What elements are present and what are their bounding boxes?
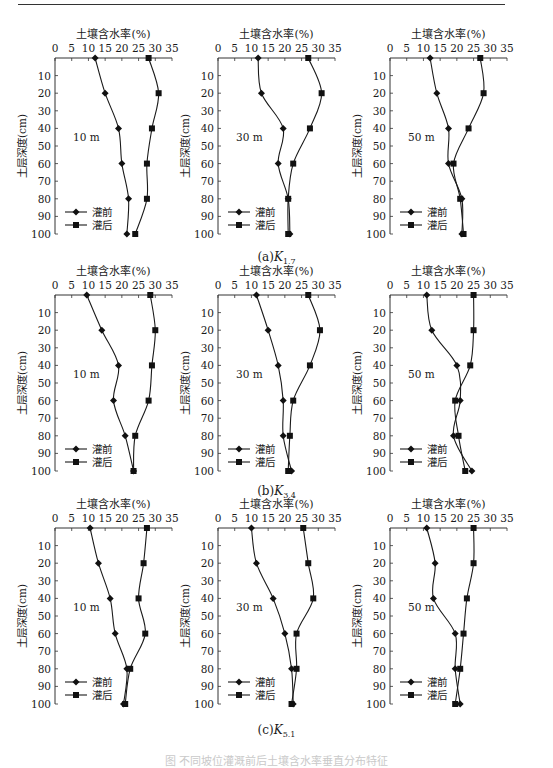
- svg-text:35: 35: [500, 279, 513, 291]
- svg-text:15: 15: [261, 279, 274, 291]
- svg-text:90: 90: [373, 680, 386, 692]
- svg-text:10: 10: [82, 512, 95, 524]
- svg-text:100: 100: [194, 698, 214, 710]
- svg-text:5: 5: [231, 512, 238, 524]
- panel-8: 05101520253035102030405060708090100土壤含水率…: [351, 497, 514, 710]
- svg-text:20: 20: [201, 324, 214, 336]
- svg-text:60: 60: [373, 395, 386, 407]
- svg-text:0: 0: [387, 279, 394, 291]
- svg-text:20: 20: [373, 557, 386, 569]
- svg-text:30: 30: [38, 105, 51, 117]
- svg-text:灌后: 灌后: [255, 689, 275, 701]
- svg-text:10: 10: [417, 42, 430, 54]
- svg-text:20: 20: [278, 279, 291, 291]
- svg-text:10: 10: [38, 70, 51, 82]
- svg-text:20: 20: [373, 324, 386, 336]
- svg-text:70: 70: [201, 175, 214, 187]
- svg-text:灌前: 灌前: [427, 443, 447, 455]
- svg-text:20: 20: [450, 279, 463, 291]
- svg-text:70: 70: [201, 645, 214, 657]
- svg-text:15: 15: [98, 512, 111, 524]
- svg-text:25: 25: [132, 279, 145, 291]
- svg-text:40: 40: [373, 592, 386, 604]
- panel-caption-b: (b)K3.4: [0, 484, 553, 500]
- svg-text:60: 60: [38, 628, 51, 640]
- svg-text:5: 5: [231, 279, 238, 291]
- svg-text:50: 50: [38, 140, 51, 152]
- svg-text:100: 100: [366, 465, 386, 477]
- svg-text:80: 80: [201, 193, 214, 205]
- panel-caption-c: (c)K5.1: [0, 723, 553, 739]
- svg-text:5: 5: [68, 42, 75, 54]
- svg-text:0: 0: [215, 42, 222, 54]
- svg-text:100: 100: [31, 228, 51, 240]
- svg-text:5: 5: [403, 512, 410, 524]
- svg-text:90: 90: [373, 447, 386, 459]
- svg-text:50: 50: [373, 610, 386, 622]
- svg-text:灌后: 灌后: [255, 456, 275, 468]
- svg-text:5: 5: [68, 512, 75, 524]
- svg-text:60: 60: [201, 628, 214, 640]
- svg-text:70: 70: [38, 412, 51, 424]
- svg-text:70: 70: [373, 175, 386, 187]
- svg-text:10 m: 10 m: [73, 368, 100, 380]
- svg-text:10: 10: [245, 279, 258, 291]
- svg-text:10: 10: [417, 512, 430, 524]
- svg-text:30: 30: [149, 512, 162, 524]
- svg-text:灌后: 灌后: [427, 219, 447, 231]
- svg-text:10: 10: [201, 307, 214, 319]
- svg-text:15: 15: [433, 512, 446, 524]
- svg-text:50 m: 50 m: [408, 131, 435, 143]
- svg-text:土层深度(cm): 土层深度(cm): [16, 584, 28, 648]
- svg-text:15: 15: [261, 42, 274, 54]
- svg-text:灌后: 灌后: [92, 219, 112, 231]
- svg-text:10: 10: [201, 70, 214, 82]
- svg-text:50: 50: [201, 377, 214, 389]
- svg-text:灌前: 灌前: [255, 676, 275, 688]
- svg-text:100: 100: [31, 465, 51, 477]
- svg-text:灌后: 灌后: [427, 456, 447, 468]
- svg-text:30: 30: [38, 575, 51, 587]
- svg-text:80: 80: [373, 430, 386, 442]
- svg-text:10 m: 10 m: [73, 601, 100, 613]
- svg-text:20: 20: [115, 512, 128, 524]
- svg-text:60: 60: [373, 158, 386, 170]
- svg-text:100: 100: [194, 465, 214, 477]
- svg-text:10: 10: [373, 70, 386, 82]
- svg-text:0: 0: [52, 42, 59, 54]
- svg-text:30: 30: [149, 42, 162, 54]
- svg-text:5: 5: [68, 279, 75, 291]
- svg-text:80: 80: [38, 430, 51, 442]
- svg-text:25: 25: [295, 42, 308, 54]
- svg-text:50: 50: [38, 377, 51, 389]
- svg-text:5: 5: [231, 42, 238, 54]
- svg-text:灌前: 灌前: [255, 206, 275, 218]
- svg-text:20: 20: [450, 42, 463, 54]
- panel-3: 05101520253035102030405060708090100土壤含水率…: [16, 264, 179, 477]
- svg-text:90: 90: [38, 680, 51, 692]
- svg-text:25: 25: [132, 42, 145, 54]
- svg-text:35: 35: [165, 512, 178, 524]
- svg-text:35: 35: [328, 512, 341, 524]
- svg-text:20: 20: [115, 42, 128, 54]
- svg-text:30: 30: [373, 342, 386, 354]
- svg-text:30 m: 30 m: [236, 601, 263, 613]
- svg-text:30: 30: [201, 105, 214, 117]
- svg-text:40: 40: [201, 592, 214, 604]
- svg-text:70: 70: [38, 175, 51, 187]
- svg-text:0: 0: [215, 512, 222, 524]
- svg-text:20: 20: [278, 512, 291, 524]
- svg-text:40: 40: [201, 122, 214, 134]
- svg-text:90: 90: [38, 447, 51, 459]
- svg-text:40: 40: [373, 122, 386, 134]
- svg-text:30: 30: [201, 342, 214, 354]
- svg-text:50 m: 50 m: [408, 601, 435, 613]
- svg-text:10: 10: [245, 42, 258, 54]
- svg-text:20: 20: [450, 512, 463, 524]
- svg-text:35: 35: [500, 512, 513, 524]
- svg-text:80: 80: [38, 663, 51, 675]
- svg-text:土层深度(cm): 土层深度(cm): [179, 351, 191, 415]
- svg-text:灌后: 灌后: [255, 219, 275, 231]
- svg-text:10: 10: [82, 42, 95, 54]
